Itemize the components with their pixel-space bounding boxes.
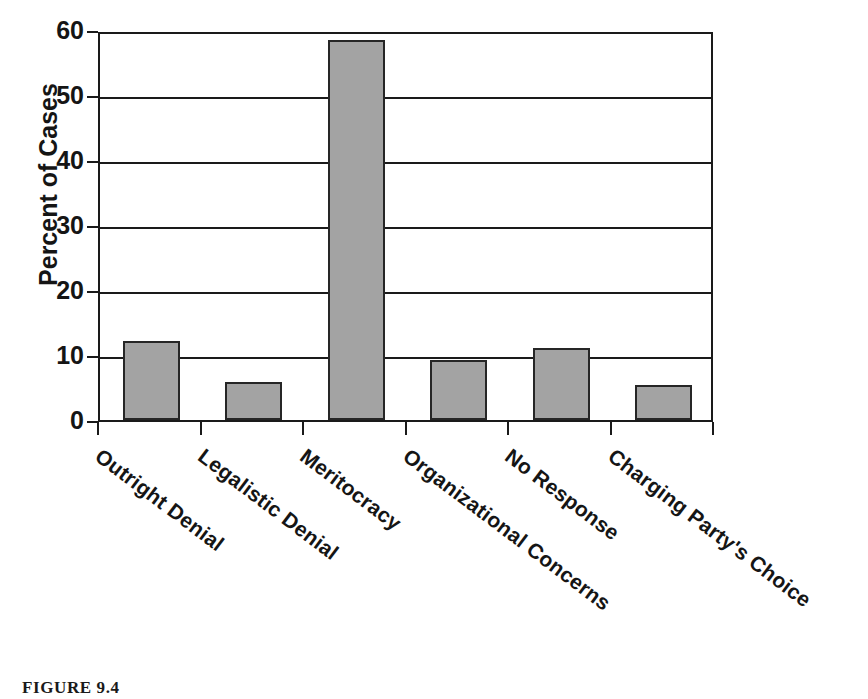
bar [123, 341, 180, 420]
y-tick-label-60: 60 [14, 18, 84, 43]
x-label-charging-party-s-choice: Charging Party's Choice [603, 444, 815, 612]
figure-bar-chart: Percent of Cases 6050403020100 Outright … [0, 0, 868, 699]
x-tick-mark-5 [610, 422, 612, 435]
plot-area [98, 32, 713, 422]
bar [328, 40, 385, 420]
x-tick-mark-4 [507, 422, 509, 435]
y-tick-label-20: 20 [14, 278, 84, 303]
y-tick-label-40: 40 [14, 148, 84, 173]
gridline-50 [100, 97, 711, 99]
x-tick-mark-0 [97, 422, 99, 435]
gridline-20 [100, 292, 711, 294]
y-tick-mark-30 [87, 226, 98, 228]
gridline-30 [100, 227, 711, 229]
x-label-organizational-concerns: Organizational Concerns [398, 444, 615, 616]
x-tick-mark-3 [405, 422, 407, 435]
bar [533, 348, 590, 420]
y-tick-mark-10 [87, 356, 98, 358]
y-tick-label-10: 10 [14, 343, 84, 368]
gridline-10 [100, 357, 711, 359]
y-tick-label-30: 30 [14, 213, 84, 238]
y-tick-mark-40 [87, 161, 98, 163]
y-tick-label-0: 0 [14, 408, 84, 433]
bar [635, 385, 692, 420]
y-tick-label-50: 50 [14, 83, 84, 108]
x-tick-mark-1 [200, 422, 202, 435]
x-tick-mark-6 [712, 422, 714, 435]
y-tick-mark-20 [87, 291, 98, 293]
y-tick-mark-60 [87, 31, 98, 33]
bar [225, 382, 282, 420]
figure-caption: FIGURE 9.4 [22, 678, 120, 698]
x-tick-mark-2 [302, 422, 304, 435]
gridline-40 [100, 162, 711, 164]
bar [430, 360, 487, 420]
y-tick-mark-50 [87, 96, 98, 98]
